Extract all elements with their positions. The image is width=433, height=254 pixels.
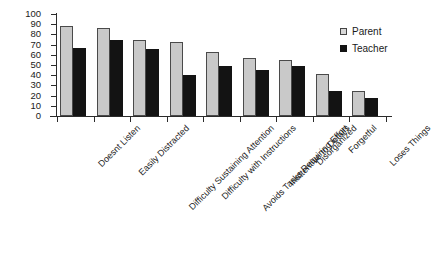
bar-group (206, 14, 232, 116)
x-tick-mark (94, 117, 95, 122)
bar-group (60, 14, 86, 116)
bar-teacher (292, 66, 305, 116)
y-tick-mark-20 (51, 96, 56, 97)
x-axis-label: Doesnt Listen (96, 123, 142, 169)
legend-label-teacher: Teacher (352, 43, 388, 54)
x-tick-mark (167, 117, 168, 122)
x-axis-label: Difficulty Sustaining Attention (187, 123, 276, 212)
y-tick-mark-100 (51, 14, 56, 15)
x-axis-label: Easily Distracted (136, 123, 190, 177)
bar-group (316, 14, 342, 116)
y-tick-label-30: 30 (30, 80, 41, 90)
x-tick-mark (240, 117, 241, 122)
chart-legend: Parent Teacher (340, 24, 410, 58)
x-axis-label: Loses Things (388, 123, 433, 168)
bar-parent (279, 60, 292, 116)
x-tick-mark (57, 117, 58, 122)
bar-parent (316, 74, 329, 116)
bar-teacher (256, 70, 269, 116)
bar-parent (243, 58, 256, 116)
x-tick-mark (203, 117, 204, 122)
y-axis-tick-labels: 1009080706050403020100 (0, 9, 50, 121)
parent-swatch-icon (340, 28, 347, 35)
bar-parent (97, 28, 110, 116)
bar-teacher (365, 98, 378, 116)
y-tick-mark-90 (51, 24, 56, 25)
bar-group (133, 14, 159, 116)
y-tick-mark-40 (51, 75, 56, 76)
x-tick-mark (349, 117, 350, 122)
legend-item-teacher: Teacher (340, 41, 410, 55)
bar-parent (133, 40, 146, 117)
bar-parent (60, 26, 73, 116)
bar-teacher (73, 48, 86, 116)
x-tick-mark (313, 117, 314, 122)
bar-group (97, 14, 123, 116)
bar-group (170, 14, 196, 116)
y-tick-mark-80 (51, 34, 56, 35)
y-tick-mark-30 (51, 85, 56, 86)
y-tick-mark-0 (51, 116, 56, 117)
legend-item-parent: Parent (340, 24, 410, 38)
x-tick-mark (386, 117, 387, 122)
legend-label-parent: Parent (352, 26, 381, 37)
x-axis-category-labels: Doesnt ListenEasily DistractedDifficulty… (0, 117, 411, 254)
bar-group (243, 14, 269, 116)
bar-teacher (329, 91, 342, 117)
bar-parent (170, 42, 183, 116)
x-tick-mark (130, 117, 131, 122)
y-tick-mark-70 (51, 45, 56, 46)
x-tick-mark (276, 117, 277, 122)
y-tick-label-80: 80 (30, 29, 41, 39)
bar-teacher (110, 40, 123, 117)
teacher-swatch-icon (340, 45, 347, 52)
bar-group (279, 14, 305, 116)
y-tick-mark-60 (51, 55, 56, 56)
plot-area (57, 14, 386, 116)
bar-parent (352, 91, 365, 117)
bar-teacher (219, 66, 232, 116)
bar-parent (206, 52, 219, 116)
bar-teacher (146, 49, 159, 116)
bar-teacher (183, 75, 196, 116)
y-tick-mark-10 (51, 106, 56, 107)
y-tick-mark-50 (51, 65, 56, 66)
